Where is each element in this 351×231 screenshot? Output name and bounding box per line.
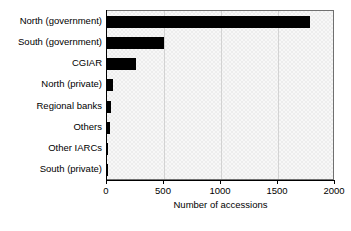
bar-chart-figure: North (government)South (government)CGIA… — [0, 0, 351, 231]
x-axis-tick-mark — [277, 181, 278, 184]
x-axis-tick-mark — [220, 181, 221, 184]
bar — [107, 16, 310, 28]
x-axis-tick-label: 500 — [155, 185, 171, 196]
x-axis-tick-mark — [334, 181, 335, 184]
bar — [107, 79, 113, 91]
bar — [107, 164, 108, 176]
bar — [107, 122, 110, 134]
bar — [107, 58, 136, 70]
x-axis-tick-mark — [106, 181, 107, 184]
y-axis-label: CGIAR — [2, 58, 102, 68]
y-axis-labels: North (government)South (government)CGIA… — [0, 10, 102, 180]
gridline — [164, 11, 165, 179]
x-axis-title: Number of accessions — [106, 199, 335, 211]
bar — [107, 37, 164, 49]
plot-area — [106, 10, 334, 180]
y-axis-label: North (private) — [2, 79, 102, 89]
x-axis-tick-label: 1500 — [266, 185, 287, 196]
bar — [107, 143, 108, 155]
x-axis-tick-label: 0 — [103, 185, 108, 196]
bar — [107, 101, 111, 113]
y-axis-label: Others — [2, 122, 102, 132]
x-axis-tick-label: 2000 — [323, 185, 344, 196]
x-axis-tick-label: 1000 — [209, 185, 230, 196]
x-axis-tick-mark — [163, 181, 164, 184]
x-axis-tick-labels: 0500100015002000 — [0, 185, 351, 197]
y-axis-label: North (government) — [2, 16, 102, 26]
gridline — [278, 11, 279, 179]
gridline — [221, 11, 222, 179]
y-axis-label: Regional banks — [2, 101, 102, 111]
y-axis-line — [106, 10, 107, 181]
y-axis-label: South (government) — [2, 37, 102, 47]
y-axis-label: Other IARCs — [2, 143, 102, 153]
y-axis-label: South (private) — [2, 164, 102, 174]
